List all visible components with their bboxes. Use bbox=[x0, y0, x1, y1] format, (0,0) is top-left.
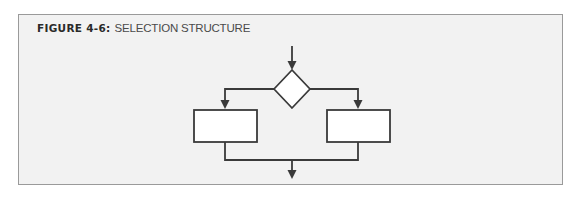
left-process-box bbox=[194, 110, 257, 142]
right-process-box bbox=[327, 110, 390, 142]
exit-arrow bbox=[288, 160, 297, 179]
selection-flowchart bbox=[0, 0, 581, 197]
branch-right-connector bbox=[310, 89, 363, 109]
merge-connector bbox=[225, 142, 358, 160]
branch-left-connector bbox=[221, 89, 275, 109]
decision-diamond bbox=[274, 70, 310, 108]
entry-arrow bbox=[288, 46, 297, 70]
